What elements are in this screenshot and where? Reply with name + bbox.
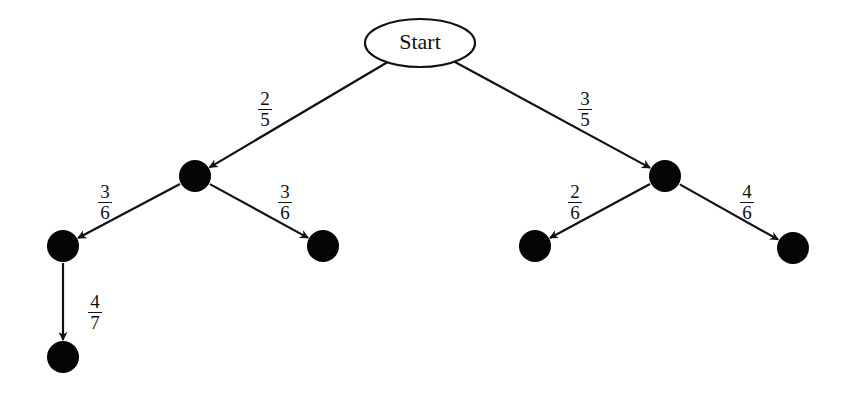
edge-n1-n3 <box>78 184 180 238</box>
numerator: 4 <box>737 183 757 201</box>
outcome-node-n6 <box>777 232 809 264</box>
edge-probability-label: 35 <box>575 90 595 129</box>
numerator: 3 <box>95 183 115 201</box>
denominator: 6 <box>275 204 295 222</box>
edge-root-n1 <box>210 62 388 167</box>
outcome-node-n2 <box>649 160 681 192</box>
edge-probability-label: 36 <box>275 183 295 222</box>
edge-root-n2 <box>454 62 650 168</box>
denominator: 6 <box>737 204 757 222</box>
edge-probability-label: 47 <box>85 293 105 332</box>
outcome-node-n1 <box>179 160 211 192</box>
edge-probability-label: 46 <box>737 183 757 222</box>
outcome-node-n5 <box>519 230 551 262</box>
numerator: 4 <box>85 293 105 311</box>
edge-probability-label: 26 <box>565 183 585 222</box>
edge-n2-n6 <box>680 184 778 239</box>
numerator: 3 <box>275 183 295 201</box>
outcome-node-n4 <box>307 230 339 262</box>
denominator: 6 <box>565 204 585 222</box>
denominator: 5 <box>575 111 595 129</box>
denominator: 6 <box>95 204 115 222</box>
edge-probability-label: 25 <box>255 90 275 129</box>
outcome-node-n7 <box>47 341 79 373</box>
numerator: 3 <box>575 90 595 108</box>
numerator: 2 <box>255 90 275 108</box>
denominator: 5 <box>255 111 275 129</box>
probability-tree-diagram <box>0 0 853 398</box>
numerator: 2 <box>565 183 585 201</box>
outcome-node-n3 <box>47 230 79 262</box>
denominator: 7 <box>85 314 105 332</box>
start-node-label: Start <box>365 29 475 55</box>
edge-probability-label: 36 <box>95 183 115 222</box>
